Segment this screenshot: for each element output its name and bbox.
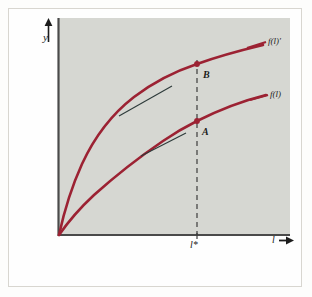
point-label-b: B [203, 70, 210, 80]
figure-container: y l l* A B f(l)′ f(l) [0, 0, 312, 297]
point-label-a: A [202, 127, 209, 137]
x-axis-label: l [272, 235, 275, 245]
plot-canvas [0, 0, 312, 297]
curve-label-lower: f(l) [270, 90, 281, 99]
plot-background [58, 18, 290, 236]
y-axis-label: y [43, 32, 48, 43]
x-axis-arrow-icon [279, 236, 294, 244]
curve-label-upper: f(l)′ [268, 37, 281, 46]
point-A-marker [194, 118, 200, 124]
point-B-marker [194, 61, 200, 67]
x-tick-label-lstar: l* [190, 240, 198, 250]
